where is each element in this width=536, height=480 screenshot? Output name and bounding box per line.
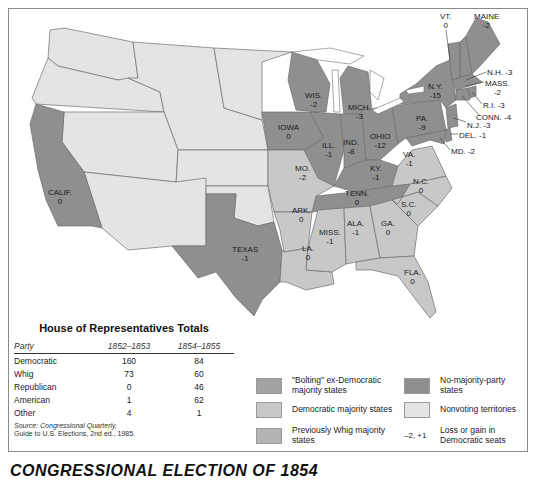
header-1852: 1852–1853 xyxy=(94,340,164,354)
figure-title: CONGRESSIONAL ELECTION OF 1854 xyxy=(10,462,318,480)
cell-1852: 4 xyxy=(94,406,164,419)
cell-1854: 46 xyxy=(164,380,234,393)
label-texas: TEXAS-1 xyxy=(232,245,258,263)
label-virginia: VA.-1 xyxy=(403,150,415,168)
house-totals-table: House of Representatives Totals Party 18… xyxy=(14,322,234,438)
cell-party: American xyxy=(14,393,94,406)
header-1854: 1854–1855 xyxy=(164,340,234,354)
state-new-jersey xyxy=(446,104,458,128)
cell-1854: 84 xyxy=(164,354,234,368)
table-row: Democratic16084 xyxy=(14,354,234,368)
legend-label: No-majority-party states xyxy=(440,376,526,395)
cell-1852: 160 xyxy=(94,354,164,368)
swatch-democratic xyxy=(256,402,282,418)
label-south-carolina: S.C.0 xyxy=(401,200,417,218)
state-connecticut xyxy=(456,88,470,100)
label-vermont: VT.0 xyxy=(440,12,452,30)
table-row: American162 xyxy=(14,393,234,406)
label-louisiana: LA.0 xyxy=(302,244,314,262)
label-indiana: IND.-8 xyxy=(343,138,359,156)
cell-1852: 73 xyxy=(94,367,164,380)
legend-label: Nonvoting territories xyxy=(440,405,516,415)
cell-1854: 60 xyxy=(164,367,234,380)
cell-party: Whig xyxy=(14,367,94,380)
swatch-bolting xyxy=(256,378,282,394)
legend-item-whig: Previously Whig majority states xyxy=(256,426,396,445)
label-kentucky: KY.-1 xyxy=(370,164,382,182)
swatch-nonvoting xyxy=(404,402,430,418)
label-maine: MAINE-2 xyxy=(474,12,499,30)
lake-huron xyxy=(370,70,384,100)
cell-party: Democratic xyxy=(14,354,94,368)
label-illinois: ILL.-1 xyxy=(322,141,335,159)
state-florida xyxy=(356,256,436,318)
source-note: Source: Congressional Quarterly, Guide t… xyxy=(14,422,234,438)
legend-item-no-majority: No-majority-party states xyxy=(404,376,526,395)
label-michigan: MICH.-3 xyxy=(348,103,371,121)
label-rhode-island: R.I. -3 xyxy=(483,101,505,110)
source-line-1: Source: Congressional Quarterly, xyxy=(14,422,117,429)
label-ohio: OHIO-12 xyxy=(370,132,390,150)
source-line-2: Guide to U.S. Elections, 2nd ed., 1985. xyxy=(14,430,135,437)
legend-item-bolting: "Bolting" ex-Democratic majority states xyxy=(256,376,396,395)
cell-1854: 1 xyxy=(164,406,234,419)
legend-label: Democratic majority states xyxy=(292,405,392,415)
legend-item-seat-change: –2, +1 Loss or gain in Democratic seats xyxy=(404,426,526,445)
legend-label: Loss or gain in Democratic seats xyxy=(440,426,526,445)
table-row: Republican046 xyxy=(14,380,234,393)
cell-party: Other xyxy=(14,406,94,419)
label-new-jersey: N.J. -3 xyxy=(467,121,491,130)
change-symbol: –2, +1 xyxy=(404,431,440,441)
label-mississippi: MISS.-1 xyxy=(319,228,341,246)
label-massachusetts: MASS.-2 xyxy=(485,79,510,97)
label-new-hampshire: N.H. -3 xyxy=(487,68,512,77)
swatch-whig xyxy=(256,428,282,444)
label-maryland: MD. -2 xyxy=(451,147,475,156)
table-header-row: Party 1852–1853 1854–1855 xyxy=(14,340,234,354)
cell-party: Republican xyxy=(14,380,94,393)
table-title: House of Representatives Totals xyxy=(14,322,234,334)
cell-1852: 1 xyxy=(94,393,164,406)
label-california: CALIF.0 xyxy=(48,188,72,206)
legend-label: Previously Whig majority states xyxy=(292,426,396,445)
legend-item-nonvoting: Nonvoting territories xyxy=(404,402,526,418)
label-georgia: GA.0 xyxy=(381,219,395,237)
label-delaware: DEL. -1 xyxy=(459,131,486,140)
table-row: Other41 xyxy=(14,406,234,419)
totals-table: Party 1852–1853 1854–1855 Democratic1608… xyxy=(14,340,234,419)
label-pennsylvania: PA.-9 xyxy=(416,114,428,132)
label-new-york: N.Y.-15 xyxy=(428,82,443,100)
cell-1852: 0 xyxy=(94,380,164,393)
cell-1854: 62 xyxy=(164,393,234,406)
header-party: Party xyxy=(14,340,94,354)
label-iowa: IOWA0 xyxy=(278,123,299,141)
label-missouri: MO.-2 xyxy=(295,164,310,182)
lake-michigan xyxy=(332,70,340,112)
swatch-no-majority xyxy=(404,378,430,394)
table-row: Whig7360 xyxy=(14,367,234,380)
label-arkansas: ARK.0 xyxy=(292,206,311,224)
legend-item-democratic: Democratic majority states xyxy=(256,402,406,418)
legend-label: "Bolting" ex-Democratic majority states xyxy=(292,376,396,395)
label-alabama: ALA.-1 xyxy=(347,219,364,237)
label-tennessee: TENN.0 xyxy=(345,189,369,207)
label-north-carolina: N.C.0 xyxy=(413,177,429,195)
label-wisconsin: WIS.-2 xyxy=(305,91,322,109)
territory-new-mexico xyxy=(84,172,206,250)
label-florida: FLA.0 xyxy=(404,268,421,286)
